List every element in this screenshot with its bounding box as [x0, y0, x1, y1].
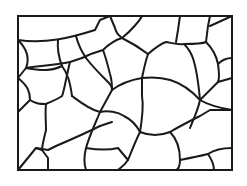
grain-boundary-line: [30, 100, 46, 104]
grain-structure-diagram: [0, 0, 247, 186]
grain-boundary-line: [200, 100, 232, 110]
grain-boundary-line: [76, 36, 86, 58]
grain-boundary-line: [86, 58, 112, 90]
grain-boundary-line: [26, 58, 82, 68]
grain-boundary-line: [142, 77, 200, 100]
grain-boundary-line: [200, 82, 218, 100]
grain-boundary-line: [103, 38, 122, 50]
grain-boundary-line: [18, 78, 30, 112]
grain-boundary-line: [210, 16, 232, 26]
grain-boundary-line: [42, 104, 46, 150]
grain-boundary-line: [176, 16, 180, 42]
grain-boundary-line: [110, 16, 122, 38]
grain-boundary-line: [140, 132, 170, 135]
grain-boundary-line: [208, 154, 214, 170]
grain-boundary-line: [208, 148, 232, 154]
grain-boundary-line: [100, 122, 112, 126]
grain-boundary-line: [112, 78, 142, 90]
grain-boundary-line: [218, 64, 232, 82]
grain-boundary-line: [218, 58, 232, 64]
grain-boundary-line: [58, 40, 62, 66]
grain-boundary-line: [86, 148, 128, 160]
grain-boundary-line: [56, 126, 100, 146]
grain-boundary-line: [82, 50, 103, 58]
grain-boundary-line: [85, 112, 101, 170]
grain-boundary-line: [170, 110, 232, 132]
grain-boundary-line: [122, 38, 148, 54]
grain-boundary-line: [122, 16, 142, 38]
grain-boundary-line: [142, 54, 148, 78]
grain-boundary-line: [42, 150, 48, 170]
grain-boundary-line: [18, 40, 28, 78]
grain-boundary-line: [206, 42, 218, 64]
grain-boundary-line: [190, 100, 200, 128]
grain-boundary-line: [184, 16, 210, 44]
grain-boundary-line: [140, 78, 143, 132]
grain-boundary-line: [18, 148, 42, 170]
grain-boundary-line: [100, 111, 140, 132]
grain-boundary-line: [72, 90, 112, 112]
grain-boundary-line: [36, 146, 56, 150]
grain-boundary-line: [180, 154, 208, 160]
grain-boundary-line: [170, 132, 180, 170]
grain-boundaries: [18, 16, 232, 170]
grain-boundary-line: [18, 16, 110, 41]
grain-boundary-line: [148, 42, 184, 54]
